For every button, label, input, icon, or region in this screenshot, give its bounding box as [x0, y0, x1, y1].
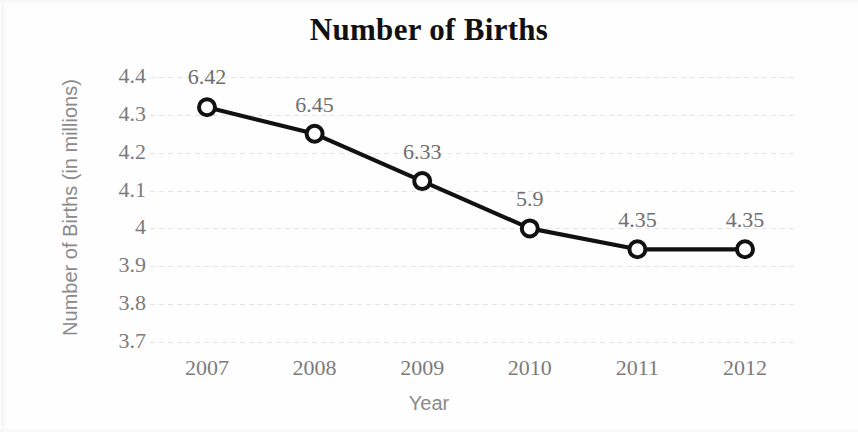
- gridline: [150, 191, 798, 192]
- y-axis-tick-label: 4: [100, 214, 146, 240]
- x-axis-tick-label: 2007: [162, 355, 252, 381]
- data-point-label: 6.33: [382, 139, 462, 165]
- y-axis-tick-label: 3.7: [100, 328, 146, 354]
- gridline: [150, 266, 798, 267]
- y-axis-tick-label: 4.1: [100, 177, 146, 203]
- x-axis-tick-label: 2009: [377, 355, 467, 381]
- data-point-marker: [737, 241, 753, 257]
- x-axis-tick-label: 2010: [485, 355, 575, 381]
- gridline: [150, 115, 798, 116]
- y-axis-tick-label: 3.8: [100, 290, 146, 316]
- y-axis-tick-label: 4.3: [100, 101, 146, 127]
- y-axis-tick-label: 4.4: [100, 63, 146, 89]
- data-point-label: 4.35: [597, 207, 677, 233]
- x-axis-tick-label: 2012: [700, 355, 790, 381]
- data-point-label: 6.42: [167, 64, 247, 90]
- gridline: [150, 304, 798, 305]
- gridline: [150, 342, 798, 343]
- scan-edge-top: [0, 0, 858, 5]
- gridline: [150, 228, 798, 229]
- chart-canvas: Number of Births Number of Births (in mi…: [0, 0, 858, 432]
- gridline: [150, 77, 798, 78]
- data-point-marker: [199, 99, 215, 115]
- series-markers: [199, 99, 753, 257]
- data-point-marker: [307, 126, 323, 142]
- x-axis-title: Year: [0, 392, 858, 415]
- scan-edge-bottom: [0, 426, 858, 432]
- data-point-label: 6.45: [275, 92, 355, 118]
- data-point-marker: [414, 173, 430, 189]
- data-point-label: 5.9: [490, 186, 570, 212]
- x-axis-tick-label: 2008: [270, 355, 360, 381]
- scan-edge-left: [0, 0, 7, 432]
- y-axis-title: Number of Births (in millions): [59, 53, 82, 363]
- y-axis-tick-label: 3.9: [100, 252, 146, 278]
- y-axis-tick-label: 4.2: [100, 139, 146, 165]
- chart-title: Number of Births: [0, 12, 858, 48]
- data-point-marker: [629, 241, 645, 257]
- gridline: [150, 153, 798, 154]
- x-axis-tick-label: 2011: [592, 355, 682, 381]
- data-point-label: 4.35: [705, 207, 785, 233]
